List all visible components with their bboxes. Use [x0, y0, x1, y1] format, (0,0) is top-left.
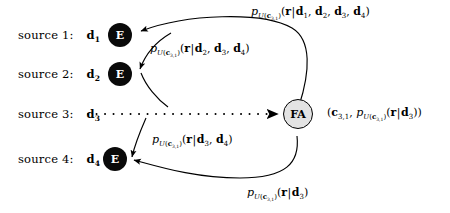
source-4-label: source 4: d4: [18, 152, 100, 168]
source-4-text: source 4:: [18, 152, 74, 166]
edge-fa-to-source4: [132, 118, 146, 157]
formula-upper-mid: pU(c3,1)(r|d2, d3, d4): [150, 42, 250, 57]
encoder-1-label: E: [116, 29, 124, 42]
formula-output-tuple: (c3,1, pU(c3,1)(r|d3)): [327, 106, 422, 121]
source-3-variable: d3: [86, 107, 100, 121]
source-3-label: source 3: d3: [18, 107, 100, 123]
source-1-variable: d1: [86, 28, 100, 42]
source-2-label: source 2: d2: [18, 67, 100, 83]
formula-lower-mid: pU(c3,1)(r|d3, d4): [152, 133, 232, 148]
source-1-text: source 1:: [18, 28, 74, 42]
edge-fa-to-source1: [141, 17, 307, 106]
source-2-text: source 2:: [18, 67, 74, 81]
source-4-variable: d4: [86, 152, 100, 166]
encoder-node-source-4[interactable]: E: [103, 147, 127, 171]
diagram-canvas: source 1: d1 E source 2: d2 E source 3: …: [0, 0, 450, 213]
encoder-node-source-2[interactable]: E: [108, 62, 132, 86]
encoder-4-label: E: [111, 153, 119, 166]
source-1-label: source 1: d1: [18, 28, 100, 44]
feedback-aggregator-node[interactable]: FA: [283, 99, 313, 129]
formula-top: pU(c3,1)(r|d1, d2, d3, d4): [251, 5, 370, 20]
encoder-2-label: E: [116, 68, 124, 81]
encoder-node-source-1[interactable]: E: [108, 23, 132, 47]
source-2-variable: d2: [86, 67, 100, 81]
source-3-text: source 3:: [18, 107, 74, 121]
formula-bottom: pU(c3,1)(r|d3): [247, 186, 308, 201]
fa-label: FA: [290, 108, 306, 121]
edge-source2-curve-tail: [141, 73, 168, 107]
